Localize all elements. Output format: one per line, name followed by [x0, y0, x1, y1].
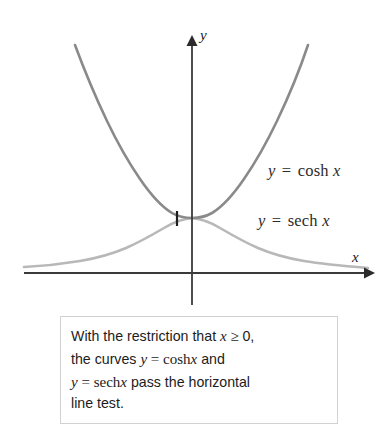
- curve-label-sech: y = sech x: [258, 211, 330, 231]
- y-axis-label: y: [200, 27, 207, 44]
- caption-line-3-equals: =: [78, 374, 94, 390]
- curve-label-cosh-arg: x: [333, 161, 341, 180]
- curve-label-sech-fn: sech: [288, 211, 318, 230]
- caption-line-1-text-a: With the restriction that: [71, 328, 220, 344]
- caption-text: With the restriction that x ≥ 0, the cur…: [71, 325, 327, 415]
- caption-line-3: y = sechx pass the horizontal: [71, 371, 327, 394]
- x-axis-label: x: [352, 249, 359, 266]
- curve-label-sech-lhs: y: [258, 211, 266, 230]
- curve-label-cosh-equals: =: [280, 161, 294, 180]
- caption-line-3-y: y: [71, 374, 78, 390]
- caption-line-2-equals: =: [147, 351, 163, 367]
- curve-label-cosh: y = cosh x: [268, 161, 341, 181]
- caption-line-2: the curves y = coshx and: [71, 348, 327, 371]
- curve-label-cosh-fn: cosh: [298, 161, 329, 180]
- caption-line-1: With the restriction that x ≥ 0,: [71, 325, 327, 348]
- y-axis-arrowhead: [187, 35, 198, 46]
- caption-line-1-operator: ≥: [227, 328, 243, 344]
- curve-label-sech-arg: x: [322, 211, 330, 230]
- caption-line-3-fn: sech: [94, 374, 121, 390]
- caption-line-2-text-b: and: [197, 351, 225, 367]
- curve-label-cosh-lhs: y: [268, 161, 276, 180]
- caption-line-2-text-a: the curves: [71, 351, 140, 367]
- caption-line-3-text-b: pass the horizontal: [127, 374, 250, 390]
- curve-label-sech-equals: =: [270, 211, 284, 230]
- caption-line-1-text-b: 0,: [242, 328, 254, 344]
- caption-line-2-fn: cosh: [163, 351, 191, 367]
- figure-root: y x y = cosh x y = sech x With the restr…: [0, 0, 386, 437]
- caption-box: With the restriction that x ≥ 0, the cur…: [60, 316, 338, 424]
- caption-line-1-variable: x: [220, 328, 227, 344]
- caption-line-3-arg: x: [120, 374, 127, 390]
- caption-line-4: line test.: [71, 393, 327, 415]
- x-axis-arrowhead: [364, 268, 375, 279]
